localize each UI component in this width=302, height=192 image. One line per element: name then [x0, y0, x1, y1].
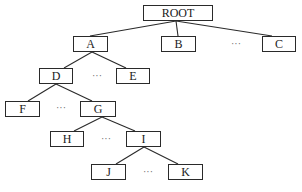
node-label: I [142, 133, 146, 145]
edge-i-j [116, 147, 144, 164]
ellipsis-dots-h-i: ··· [101, 133, 111, 144]
node-label: ROOT [162, 7, 195, 19]
node-label: E [129, 70, 136, 82]
edge-a-d [64, 52, 92, 68]
node-label: C [275, 38, 283, 50]
ellipsis-dots-b-c: ··· [231, 38, 241, 49]
edge-g-h [74, 117, 102, 131]
node-a: A [73, 36, 108, 52]
node-j: J [91, 164, 126, 180]
node-label: H [63, 133, 72, 145]
node-e: E [116, 68, 150, 84]
node-label: K [181, 166, 190, 178]
ellipsis-dots-d-e: ··· [92, 70, 102, 81]
edge-i-k [144, 147, 178, 164]
node-i: I [126, 131, 161, 147]
node-b: B [161, 36, 196, 52]
node-label: A [86, 38, 95, 50]
node-d: D [39, 68, 73, 84]
node-label: D [52, 70, 61, 82]
edge-a-e [92, 52, 126, 68]
edge-root-b [176, 21, 178, 36]
node-g: G [80, 101, 116, 117]
node-k: K [168, 164, 203, 180]
edge-g-i [102, 117, 135, 131]
tree-diagram: ROOTABCDEFGHIJK ··············· [0, 0, 302, 192]
ellipsis-dots-j-k: ··· [143, 166, 153, 177]
edge-d-f [28, 84, 56, 101]
edge-d-g [56, 84, 92, 101]
node-label: F [19, 103, 26, 115]
node-label: G [94, 103, 103, 115]
node-root: ROOT [143, 5, 213, 21]
node-f: F [5, 101, 40, 117]
node-label: B [174, 38, 182, 50]
node-h: H [50, 131, 84, 147]
node-c: C [262, 36, 296, 52]
edge-root-c [176, 21, 272, 36]
tree-edges [0, 0, 302, 192]
edge-root-a [90, 21, 176, 36]
ellipsis-dots-f-g: ··· [56, 102, 66, 113]
node-label: J [106, 166, 111, 178]
